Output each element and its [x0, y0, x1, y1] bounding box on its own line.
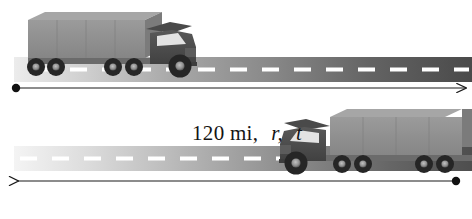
route-top-rate: r,	[271, 121, 283, 145]
cab-top-grille	[185, 48, 196, 57]
route-top-time: t	[296, 121, 302, 145]
route-bottom-rate: 2r,	[248, 214, 271, 219]
trailer-top-roof	[28, 12, 162, 20]
route-bottom-time: t − 3	[283, 214, 326, 219]
axis-bottom-end-dot	[452, 177, 460, 185]
truck-top	[27, 12, 197, 78]
trailer-top-body	[28, 20, 145, 58]
route-bottom-distance: 120 mi,	[168, 214, 234, 219]
route-top-distance: 120 mi,	[192, 121, 258, 145]
distance-rate-time-figure: 120 mi,r,t 120 mi,2r,t − 3	[0, 0, 472, 219]
route-top	[12, 12, 472, 92]
route-top-label: 120 mi,r,t	[0, 96, 472, 171]
route-bottom-label: 120 mi,2r,t − 3	[0, 189, 472, 219]
axis-top-start-dot	[12, 84, 20, 92]
